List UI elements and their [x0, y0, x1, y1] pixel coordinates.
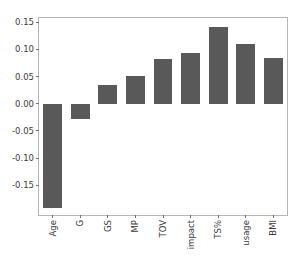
bar-chart-figure: 0.150.100.050.00-0.05-0.10-0.15 AgeGGSMP… [0, 0, 302, 258]
x-tick-label: TS% [213, 220, 223, 239]
x-tick-label: G [75, 220, 85, 227]
y-tick-mark [36, 49, 39, 50]
y-tick-label: -0.15 [12, 179, 34, 191]
x-tick-mark [218, 215, 219, 218]
y-tick-mark [36, 76, 39, 77]
x-tick-mark [245, 215, 246, 218]
bar [264, 58, 283, 104]
y-tick-label: 0.00 [15, 98, 34, 110]
y-tick-mark [36, 22, 39, 23]
x-tick-mark [135, 215, 136, 218]
bar [181, 53, 200, 104]
x-tick-mark [107, 215, 108, 218]
x-tick-label: impact [186, 220, 196, 249]
y-tick-label: 0.05 [15, 71, 34, 83]
x-tick-label: MP [130, 220, 140, 232]
bar [154, 59, 173, 104]
x-tick-label: TOV [158, 220, 168, 238]
bar [236, 44, 255, 104]
bar [43, 104, 62, 208]
y-tick-label: -0.10 [12, 152, 34, 164]
y-tick-label: 0.15 [15, 16, 34, 28]
x-tick-mark [190, 215, 191, 218]
bar [126, 76, 145, 104]
bar [71, 104, 90, 119]
x-tick-label: GS [103, 220, 113, 232]
x-tick-label: BMI [268, 220, 278, 236]
y-tick-label: 0.10 [15, 43, 34, 55]
x-tick-mark [273, 215, 274, 218]
y-tick-label: -0.05 [12, 125, 34, 137]
y-tick-mark [36, 185, 39, 186]
x-tick-mark [80, 215, 81, 218]
bar [209, 27, 228, 104]
y-tick-mark [36, 130, 39, 131]
bar [98, 85, 117, 104]
x-tick-mark [52, 215, 53, 218]
x-tick-label: Age [48, 220, 58, 236]
x-tick-mark [163, 215, 164, 218]
y-tick-mark [36, 158, 39, 159]
x-tick-label: usage [241, 220, 251, 246]
plot-area: 0.150.100.050.00-0.05-0.10-0.15 AgeGGSMP… [38, 17, 288, 216]
y-tick-mark [36, 103, 39, 104]
